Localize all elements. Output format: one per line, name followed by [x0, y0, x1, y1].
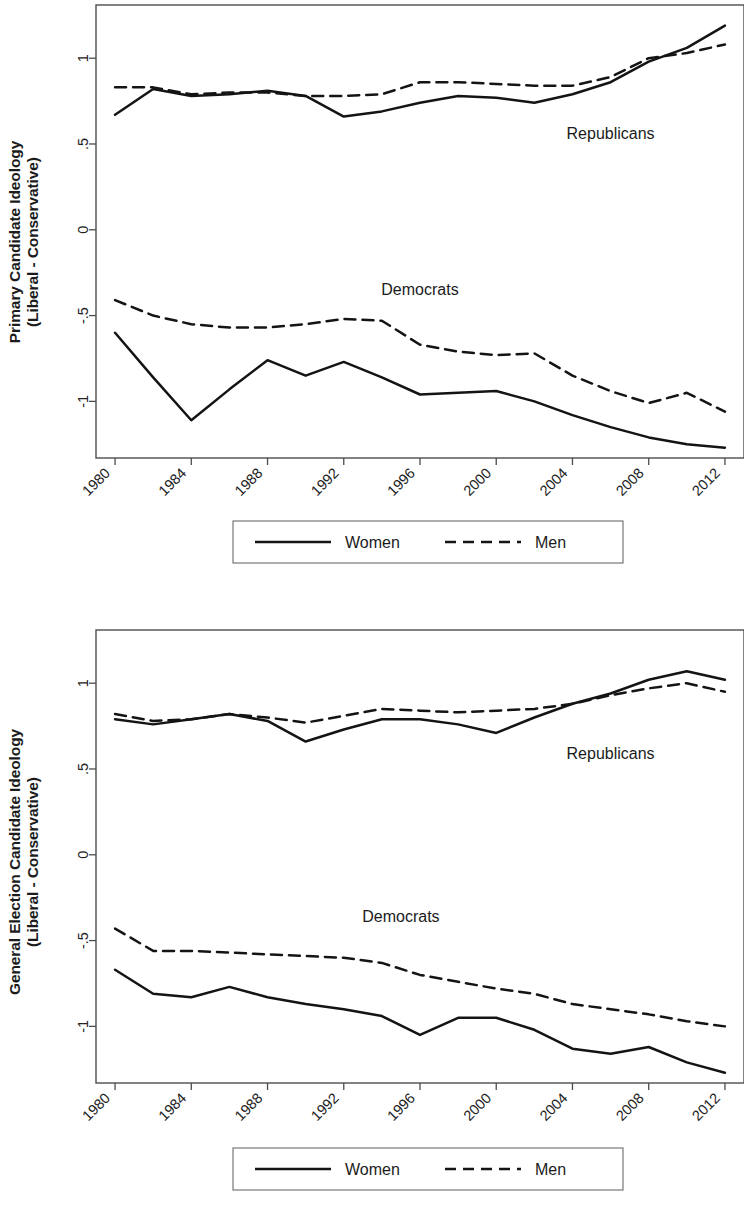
- panel-general-election-candidate-ideology: General Election Candidate Ideology (Lib…: [0, 600, 744, 1207]
- annotation-republicans: Republicans: [567, 745, 655, 762]
- y-tick-label: -1: [75, 395, 91, 408]
- plot-area-primary: 1.50-.5-11980198419881992199620002004200…: [0, 0, 744, 600]
- x-tick-label: 1996: [384, 1090, 418, 1124]
- x-tick-label: 2008: [613, 1090, 647, 1124]
- annotation-democrats: Democrats: [381, 281, 458, 298]
- series-line-republican-women: [115, 26, 725, 117]
- series-line-republican-women: [115, 671, 725, 741]
- x-tick-label: 1984: [155, 1090, 189, 1124]
- y-tick-label: -1: [75, 1020, 91, 1033]
- x-tick-label: 2008: [613, 465, 647, 499]
- plot-area-general: 1.50-.5-11980198419881992199620002004200…: [0, 600, 744, 1207]
- figure-candidate-ideology: Primary Candidate Ideology (Liberal - Co…: [0, 0, 744, 1207]
- y-tick-label: .5: [75, 763, 91, 775]
- x-tick-label: 1984: [155, 465, 189, 499]
- x-tick-label: 2012: [689, 1090, 723, 1124]
- series-line-democratic-women: [115, 333, 725, 448]
- x-tick-label: 1988: [232, 1090, 266, 1124]
- y-tick-label: 1: [75, 679, 91, 687]
- x-tick-label: 2000: [460, 1090, 494, 1124]
- x-tick-label: 1980: [79, 465, 113, 499]
- legend-label-men: Men: [535, 534, 566, 551]
- y-tick-label: -.5: [75, 307, 91, 324]
- y-tick-label: 0: [75, 226, 91, 234]
- series-line-democratic-men: [115, 929, 725, 1027]
- x-tick-label: 1992: [308, 1090, 342, 1124]
- panel-primary-candidate-ideology: Primary Candidate Ideology (Liberal - Co…: [0, 0, 744, 600]
- legend-label-men: Men: [535, 1161, 566, 1178]
- x-tick-label: 1980: [79, 1090, 113, 1124]
- x-tick-label: 1996: [384, 465, 418, 499]
- plot-frame: [96, 5, 744, 458]
- y-tick-label: 1: [75, 54, 91, 62]
- legend-label-women: Women: [345, 534, 400, 551]
- y-tick-label: 0: [75, 851, 91, 859]
- annotation-republicans: Republicans: [567, 125, 655, 142]
- x-tick-label: 2004: [536, 1090, 570, 1124]
- x-tick-label: 2004: [536, 465, 570, 499]
- x-tick-label: 2012: [689, 465, 723, 499]
- y-tick-label: -.5: [75, 932, 91, 949]
- annotation-democrats: Democrats: [362, 908, 439, 925]
- legend-label-women: Women: [345, 1161, 400, 1178]
- series-line-republican-men: [115, 683, 725, 722]
- x-tick-label: 1992: [308, 465, 342, 499]
- series-line-democratic-women: [115, 970, 725, 1073]
- x-tick-label: 2000: [460, 465, 494, 499]
- y-tick-label: .5: [75, 138, 91, 150]
- x-tick-label: 1988: [232, 465, 266, 499]
